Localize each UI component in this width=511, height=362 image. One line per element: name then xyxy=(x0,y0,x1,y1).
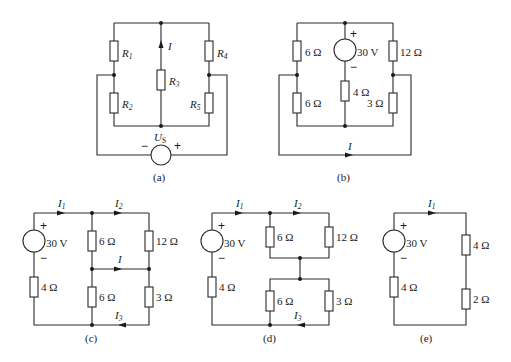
label-30v: 30 V xyxy=(224,237,246,249)
node xyxy=(268,211,272,215)
label-i2: I2 xyxy=(114,197,123,211)
current-arrow-right-icon xyxy=(57,211,65,216)
resistor-6ohm-bottom xyxy=(293,93,301,113)
label-4ohm-left: 4 Ω xyxy=(401,281,417,293)
label-3ohm: 3 Ω xyxy=(336,295,352,307)
panel-a: R1 R2 R3 R4 R5 I US − + (a) xyxy=(97,21,228,184)
node xyxy=(159,21,163,25)
resistor-3ohm xyxy=(389,93,397,113)
resistor-r3 xyxy=(157,70,165,90)
panel-e: I1 4 Ω 4 Ω 2 Ω 30 V + − (e) xyxy=(383,197,489,345)
resistor-4ohm-left xyxy=(390,277,398,297)
caption-a: (a) xyxy=(153,171,166,184)
resistor-3ohm xyxy=(325,291,333,311)
caption-c: (c) xyxy=(85,332,98,345)
voltage-source-icon xyxy=(383,230,405,252)
resistor-r4 xyxy=(205,41,213,61)
label-i1: I1 xyxy=(235,197,243,211)
resistor-6ohm-top xyxy=(88,231,96,251)
label-r1: R1 xyxy=(121,47,132,61)
label-plus: + xyxy=(40,219,47,233)
label-minus: − xyxy=(141,139,148,153)
current-arrow-right-icon xyxy=(293,211,301,216)
resistor-6ohm-bottom xyxy=(266,291,274,311)
current-arrow-left-icon xyxy=(297,323,305,328)
label-12ohm: 12 Ω xyxy=(156,235,178,247)
label-4ohm-right: 4 Ω xyxy=(473,239,489,251)
label-6ohm-top: 6 Ω xyxy=(305,46,321,58)
circuit-figure: R1 R2 R3 R4 R5 I US − + (a) 6 Ω 6 Ω 4 Ω … xyxy=(0,0,511,362)
resistor-4ohm xyxy=(30,277,38,297)
current-arrow-right-icon xyxy=(235,211,243,216)
current-arrow-right-icon xyxy=(114,211,122,216)
resistor-3ohm xyxy=(145,287,153,307)
label-minus: − xyxy=(218,251,225,265)
label-plus: + xyxy=(174,139,181,153)
label-3ohm: 3 Ω xyxy=(367,97,383,109)
current-arrow-right-icon xyxy=(114,267,122,272)
resistor-4ohm xyxy=(208,277,216,297)
node xyxy=(298,277,302,281)
panel-d: I1 I2 I3 4 Ω 6 Ω 12 Ω 6 Ω 3 Ω 30 V + − (… xyxy=(201,197,358,345)
label-minus: − xyxy=(40,251,47,265)
resistor-4ohm xyxy=(341,81,349,101)
resistor-r5 xyxy=(205,93,213,113)
node xyxy=(159,124,163,128)
label-minus: − xyxy=(350,60,357,74)
resistor-6ohm-top xyxy=(266,227,274,247)
label-6ohm-bottom: 6 Ω xyxy=(99,291,115,303)
label-minus: − xyxy=(400,251,407,265)
label-6ohm-top: 6 Ω xyxy=(99,235,115,247)
label-plus: + xyxy=(350,27,357,41)
panel-b: 6 Ω 6 Ω 4 Ω 12 Ω 3 Ω 30 V + − I (b) xyxy=(279,21,422,184)
current-arrow-up-icon xyxy=(159,40,164,48)
node xyxy=(147,267,151,271)
node xyxy=(343,21,347,25)
caption-b: (b) xyxy=(337,171,350,184)
label-3ohm: 3 Ω xyxy=(156,291,172,303)
current-arrow-right-icon xyxy=(345,153,353,158)
label-r3: R3 xyxy=(168,75,180,89)
label-4ohm: 4 Ω xyxy=(219,281,235,293)
label-12ohm: 12 Ω xyxy=(336,231,358,243)
resistor-4ohm-right xyxy=(462,235,470,255)
label-plus: + xyxy=(400,219,407,233)
label-i3: I3 xyxy=(293,309,302,323)
node xyxy=(90,267,94,271)
label-current-i: I xyxy=(347,140,353,152)
label-i1: I1 xyxy=(57,197,65,211)
label-i1: I1 xyxy=(427,197,435,211)
label-current-i: I xyxy=(167,40,173,52)
resistor-12ohm xyxy=(145,231,153,251)
label-30v: 30 V xyxy=(406,237,428,249)
label-source-us: US xyxy=(154,131,166,145)
node xyxy=(112,73,116,77)
label-6ohm-top: 6 Ω xyxy=(277,231,293,243)
node xyxy=(343,124,347,128)
node xyxy=(90,211,94,215)
label-i2: I2 xyxy=(293,197,302,211)
label-12ohm: 12 Ω xyxy=(400,46,422,58)
label-30v: 30 V xyxy=(46,237,68,249)
resistor-12ohm xyxy=(325,227,333,247)
label-2ohm: 2 Ω xyxy=(473,293,489,305)
resistor-r1 xyxy=(110,41,118,61)
label-r2: R2 xyxy=(121,98,133,112)
resistor-12ohm xyxy=(389,41,397,61)
caption-d: (d) xyxy=(263,332,276,345)
label-i: I xyxy=(117,253,123,265)
node xyxy=(298,256,302,260)
label-6ohm-bottom: 6 Ω xyxy=(305,97,321,109)
resistor-r2 xyxy=(110,93,118,113)
resistor-6ohm-bottom xyxy=(88,287,96,307)
resistor-6ohm-top xyxy=(293,41,301,61)
node xyxy=(295,73,299,77)
voltage-source-icon xyxy=(334,39,356,61)
node xyxy=(90,323,94,327)
voltage-source-icon xyxy=(23,230,45,252)
node xyxy=(391,73,395,77)
label-r5: R5 xyxy=(189,98,201,112)
current-arrow-left-icon xyxy=(118,323,126,328)
label-i3: I3 xyxy=(114,309,123,323)
label-plus: + xyxy=(218,219,225,233)
